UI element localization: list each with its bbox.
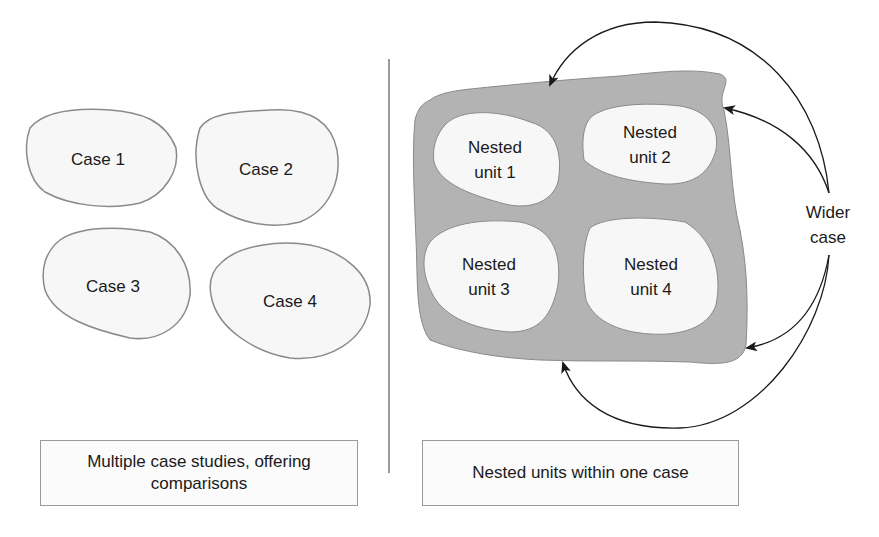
case-3-label: Case 3: [86, 277, 140, 296]
panel-divider: [388, 59, 390, 473]
case-2-blob: Case 2: [196, 110, 338, 226]
nested-unit-4: Nested unit 4: [583, 218, 718, 334]
left-caption-line2: comparisons: [87, 473, 311, 495]
right-caption-text: Nested units within one case: [472, 462, 688, 484]
nested-unit-3-line2: unit 3: [468, 280, 510, 299]
case-1-blob: Case 1: [26, 109, 176, 206]
nested-unit-4-line2: unit 4: [630, 280, 672, 299]
wider-case-label-line1: Wider: [806, 203, 851, 222]
case-4-blob: Case 4: [210, 243, 370, 358]
case-3-blob: Case 3: [43, 228, 190, 338]
case-1-label: Case 1: [71, 150, 125, 169]
nested-unit-2-line2: unit 2: [629, 148, 671, 167]
case-2-label: Case 2: [239, 160, 293, 179]
arrow-lower-right-icon: [747, 255, 829, 348]
right-caption-box: Nested units within one case: [422, 440, 739, 506]
case-4-label: Case 4: [263, 292, 317, 311]
left-caption-line1: Multiple case studies, offering: [87, 451, 311, 473]
arrow-upper-right-icon: [725, 108, 829, 193]
left-caption-box: Multiple case studies, offering comparis…: [40, 440, 358, 506]
wider-case-label-line2: case: [810, 228, 846, 247]
nested-unit-4-line1: Nested: [624, 255, 678, 274]
nested-unit-2: Nested unit 2: [583, 104, 717, 184]
nested-unit-1-line2: unit 1: [474, 163, 516, 182]
nested-unit-3-line1: Nested: [462, 255, 516, 274]
nested-unit-1-line1: Nested: [468, 138, 522, 157]
nested-unit-2-line1: Nested: [623, 123, 677, 142]
